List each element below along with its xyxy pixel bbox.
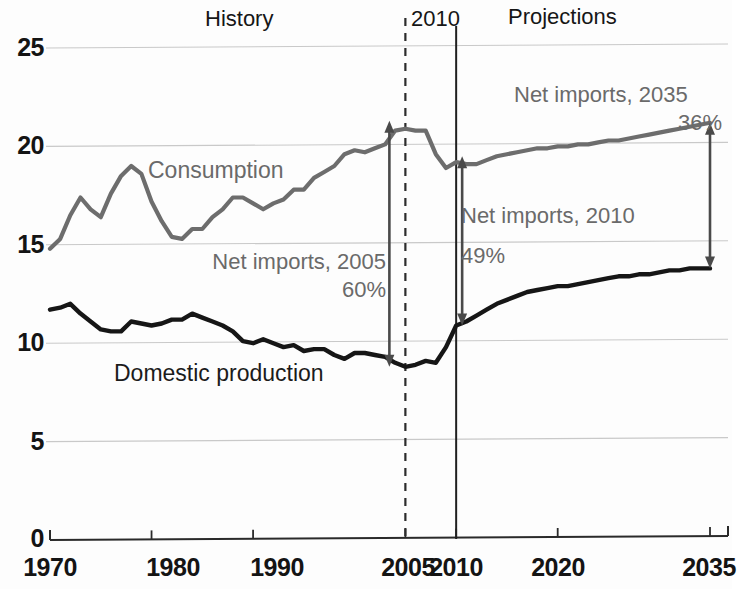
header-history: History <box>205 6 273 32</box>
series-label-domestic-production: Domestic production <box>114 360 324 387</box>
y-tick-0: 0 <box>0 524 44 553</box>
annotation-net-imports-2035-title: Net imports, 2035 <box>514 82 688 108</box>
annotation-net-imports-2005-value: 60% <box>120 277 386 303</box>
annotation-net-imports-2010-title: Net imports, 2010 <box>461 203 635 229</box>
year-marker-lines <box>405 18 456 539</box>
y-tick-10: 10 <box>0 328 44 357</box>
annotation-net-imports-2005-title: Net imports, 2005 <box>120 249 386 275</box>
header-projections: Projections <box>508 4 617 30</box>
axes-group <box>50 526 728 540</box>
y-tick-25: 25 <box>0 33 44 62</box>
y-tick-5: 5 <box>0 427 44 456</box>
header-divider-year: 2010 <box>411 6 460 32</box>
y-tick-20: 20 <box>0 131 44 160</box>
annotation-net-imports-2010-value: 49% <box>461 243 505 269</box>
x-tick-1970: 1970 <box>0 553 100 582</box>
bottom-clipped-text <box>300 575 720 589</box>
x-tick-1980: 1980 <box>123 553 223 582</box>
net-import-arrows <box>384 121 715 367</box>
annotation-net-imports-2035-value: 36% <box>460 110 722 136</box>
y-tick-15: 15 <box>0 230 44 259</box>
series-label-consumption: Consumption <box>148 157 284 184</box>
